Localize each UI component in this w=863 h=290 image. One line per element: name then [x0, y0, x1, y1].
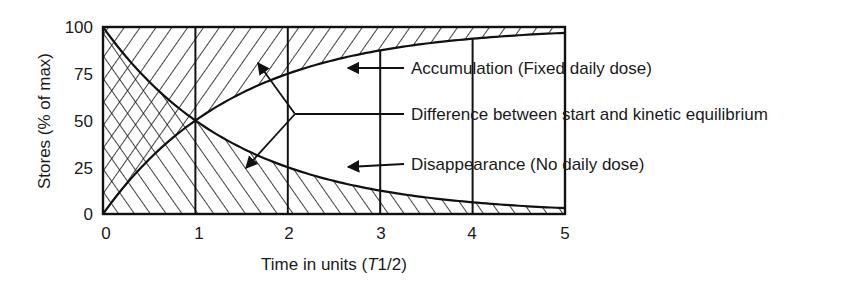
y-tick-75: 75 [74, 65, 93, 84]
x-tick-5: 5 [560, 224, 569, 243]
disappearance-arrow [348, 164, 404, 167]
y-tick-50: 50 [74, 112, 93, 131]
y-axis-title: Stores (% of max) [35, 53, 54, 189]
annotation-disappearance: Disappearance (No daily dose) [411, 155, 644, 174]
x-tick-1: 1 [194, 224, 203, 243]
x-tick-3: 3 [376, 224, 385, 243]
y-axis-ticks: 100 75 50 25 0 [65, 18, 93, 224]
annotation-accumulation: Accumulation (Fixed daily dose) [411, 59, 652, 78]
x-axis-title: Time in units (T1/2) [261, 255, 407, 274]
half-life-chart: 100 75 50 25 0 0 1 2 3 4 5 Time in units… [0, 0, 863, 290]
y-tick-25: 25 [74, 159, 93, 178]
y-tick-100: 100 [65, 18, 93, 37]
x-axis-ticks: 0 1 2 3 4 5 [101, 224, 569, 243]
annotation-difference: Difference between start and kinetic equ… [411, 105, 768, 124]
y-tick-0: 0 [84, 205, 93, 224]
x-tick-4: 4 [467, 224, 476, 243]
x-tick-0: 0 [101, 224, 110, 243]
x-tick-2: 2 [284, 224, 293, 243]
